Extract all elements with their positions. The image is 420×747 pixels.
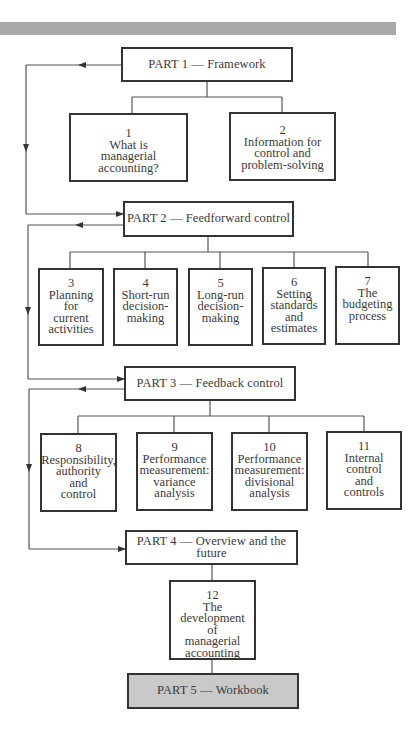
chapter-12-box: 12 The development of managerial account…: [169, 580, 256, 660]
chapter-2-box: 2 Information for control and problem-so…: [229, 112, 336, 181]
chapter-title-line: estimates: [271, 323, 318, 335]
chapter-5-box: 5 Long-run decision- making: [188, 268, 253, 346]
chapter-9-box: 9 Performance measurement: variance anal…: [136, 432, 213, 511]
chapter-title-line: control: [61, 489, 96, 501]
chapter-10-box: 10 Performance measurement: divisional a…: [231, 432, 308, 511]
chapter-title-line: The development: [171, 602, 254, 625]
part-4-box: PART 4 — Overview and the future: [125, 530, 298, 565]
chapter-title-line: analysis: [154, 488, 194, 500]
chapter-title-line: making: [127, 313, 165, 325]
chapter-title-line: analysis: [249, 488, 289, 500]
chapter-11-box: 11 Internal control and controls: [326, 431, 402, 510]
part-2-box: PART 2 — Feedforward control: [123, 201, 294, 237]
chapter-1-box: 1 What is managerial accounting?: [69, 113, 188, 182]
part-1-box: PART 1 — Framework: [121, 47, 293, 82]
chapter-8-box: 8 Responsibility, authority and control: [40, 433, 117, 512]
chapter-title-line: activities: [48, 324, 93, 336]
chapter-title-line: managerial accounting?: [71, 151, 186, 174]
part-3-label: PART 3 — Feedback control: [137, 378, 284, 390]
chapter-title-line: problem-solving: [241, 160, 324, 172]
chapter-6-box: 6 Setting standards and estimates: [262, 267, 326, 345]
chapter-title-line: process: [349, 311, 387, 323]
part-2-label: PART 2 — Feedforward control: [127, 213, 290, 225]
part-5-box: PART 5 — Workbook: [127, 673, 299, 709]
part-4-label: PART 4 — Overview and the future: [127, 536, 296, 559]
part-5-label: PART 5 — Workbook: [157, 685, 269, 697]
chapter-title-line: accounting: [185, 648, 240, 660]
chapter-7-box: 7 The budgeting process: [335, 266, 400, 345]
part-3-box: PART 3 — Feedback control: [124, 366, 296, 401]
chapter-title-line: controls: [344, 487, 384, 499]
chapter-4-box: 4 Short-run decision- making: [113, 268, 178, 346]
chapter-3-box: 3 Planning for current activities: [38, 268, 104, 346]
header-band: [0, 22, 396, 35]
part-1-label: PART 1 — Framework: [148, 59, 265, 71]
chapter-title-line: making: [202, 313, 240, 325]
